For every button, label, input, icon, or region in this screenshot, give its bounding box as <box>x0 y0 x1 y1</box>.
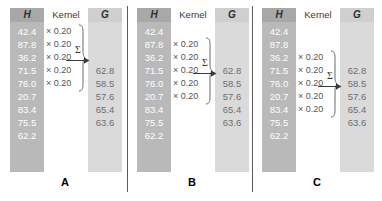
input-cell: 83.4 <box>137 103 171 116</box>
output-cell: 63.6 <box>215 116 249 129</box>
input-cell: 20.7 <box>10 90 44 103</box>
output-cell: 58.5 <box>340 77 374 90</box>
input-cell: 83.4 <box>10 103 44 116</box>
input-cell: 42.4 <box>262 25 296 38</box>
kernel-column-header: Kernel <box>44 8 88 22</box>
output-column-header: G <box>340 8 374 22</box>
kernel-weight: × 0.20 <box>46 25 80 38</box>
result-arrow <box>66 56 90 65</box>
output-cell: 62.8 <box>340 64 374 77</box>
output-cell: 57.6 <box>215 90 249 103</box>
input-cell: 87.8 <box>262 38 296 51</box>
output-cell: 57.6 <box>340 90 374 103</box>
summation-symbol: Σ <box>324 70 336 82</box>
input-cell: 36.2 <box>10 51 44 64</box>
output-column-g: G 62.8 58.5 57.6 65.4 63.6 <box>340 22 374 172</box>
input-cell: 76.0 <box>262 77 296 90</box>
input-cell: 36.2 <box>262 51 296 64</box>
input-cell: 62.2 <box>10 129 44 142</box>
kernel-weight: × 0.20 <box>173 90 207 103</box>
output-column-header: G <box>215 8 249 22</box>
kernel-column-header: Kernel <box>296 8 340 22</box>
kernel-weight: × 0.20 <box>46 64 80 77</box>
output-cell: 63.6 <box>88 116 122 129</box>
output-cell: 58.5 <box>88 77 122 90</box>
input-column-h: H 42.4 87.8 36.2 71.5 76.0 20.7 83.4 75.… <box>10 22 44 172</box>
output-cell: 63.6 <box>340 116 374 129</box>
panel-caption: B <box>129 176 255 188</box>
input-cell: 62.2 <box>262 129 296 142</box>
output-cell: 62.8 <box>215 64 249 77</box>
summation-symbol: Σ <box>72 44 84 56</box>
kernel-weight: × 0.20 <box>46 77 80 90</box>
input-cell: 83.4 <box>262 103 296 116</box>
input-cell: 87.8 <box>137 38 171 51</box>
output-column-g: G 62.8 58.5 57.6 65.4 63.6 <box>88 22 122 172</box>
input-cell: 76.0 <box>137 77 171 90</box>
input-cell: 75.5 <box>137 116 171 129</box>
input-column-h: H 42.4 87.8 36.2 71.5 76.0 20.7 83.4 75.… <box>137 22 171 172</box>
panel-b: Kernel H 42.4 87.8 36.2 71.5 76.0 20.7 8… <box>129 0 255 201</box>
kernel-weight: × 0.20 <box>173 38 207 51</box>
convolution-figure: Kernel H 42.4 87.8 36.2 71.5 76.0 20.7 8… <box>0 0 382 201</box>
output-cell: 57.6 <box>88 90 122 103</box>
output-column-g: G 62.8 58.5 57.6 65.4 63.6 <box>215 22 249 172</box>
input-cell: 75.5 <box>262 116 296 129</box>
input-column-h: H 42.4 87.8 36.2 71.5 76.0 20.7 83.4 75.… <box>262 22 296 172</box>
input-cell: 42.4 <box>10 25 44 38</box>
input-cell: 62.2 <box>137 129 171 142</box>
result-arrow <box>193 69 217 78</box>
kernel-column-header: Kernel <box>171 8 215 22</box>
output-column-header: G <box>88 8 122 22</box>
panel-caption: C <box>254 176 380 188</box>
output-cell: 65.4 <box>340 103 374 116</box>
panel-caption: A <box>2 176 128 188</box>
input-cell: 71.5 <box>10 64 44 77</box>
input-column-header: H <box>10 8 44 22</box>
output-cell: 65.4 <box>88 103 122 116</box>
input-cell: 42.4 <box>137 25 171 38</box>
panel-a: Kernel H 42.4 87.8 36.2 71.5 76.0 20.7 8… <box>2 0 128 201</box>
input-column-header: H <box>262 8 296 22</box>
panel-c: Kernel H 42.4 87.8 36.2 71.5 76.0 20.7 8… <box>254 0 380 201</box>
input-cell: 20.7 <box>137 90 171 103</box>
result-arrow <box>318 82 342 91</box>
kernel-weight: × 0.20 <box>298 51 332 64</box>
input-cell: 87.8 <box>10 38 44 51</box>
input-column-header: H <box>137 8 171 22</box>
input-cell: 20.7 <box>262 90 296 103</box>
kernel-weight: × 0.20 <box>298 90 332 103</box>
output-cell: 65.4 <box>215 103 249 116</box>
output-cell: 58.5 <box>215 77 249 90</box>
summation-symbol: Σ <box>199 57 211 69</box>
input-cell: 75.5 <box>10 116 44 129</box>
input-cell: 36.2 <box>137 51 171 64</box>
output-cell: 62.8 <box>88 64 122 77</box>
kernel-weight: × 0.20 <box>173 77 207 90</box>
kernel-weight: × 0.20 <box>298 103 332 116</box>
input-cell: 71.5 <box>262 64 296 77</box>
input-cell: 76.0 <box>10 77 44 90</box>
input-cell: 71.5 <box>137 64 171 77</box>
